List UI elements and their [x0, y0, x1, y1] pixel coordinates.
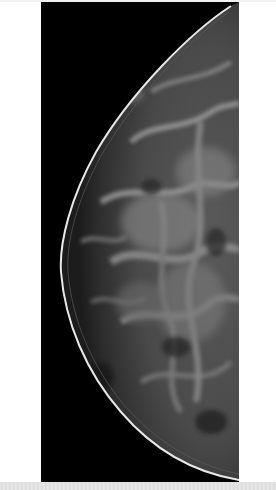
mammogram-image: [41, 2, 239, 482]
breast-tissue-graphic: [41, 2, 239, 482]
bottom-strip: [0, 482, 276, 490]
